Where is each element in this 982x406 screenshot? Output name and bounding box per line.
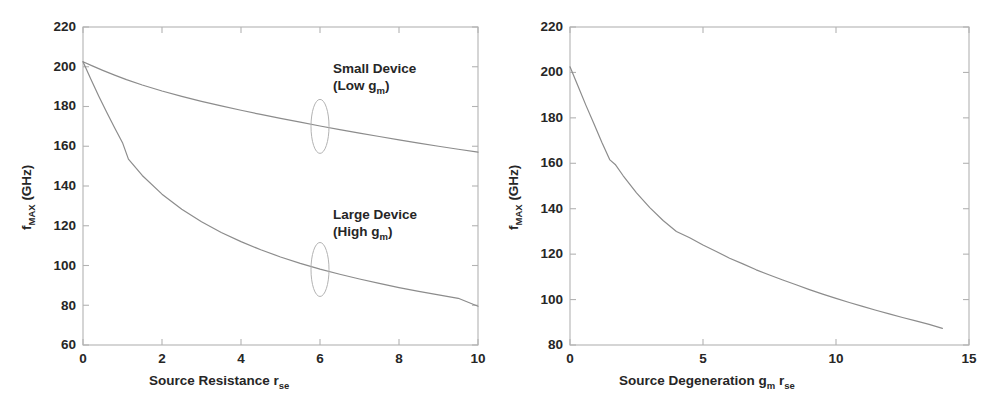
y-tick-label: 80 xyxy=(515,338,563,352)
x-tick-label: 15 xyxy=(949,352,982,366)
y-tick-label: 200 xyxy=(28,60,76,74)
x-axis-title-left: Source Resistance rse xyxy=(149,374,289,388)
x-axis-title-subscript-2: se xyxy=(784,380,795,391)
y-tick-label: 100 xyxy=(28,259,76,273)
annotation-line2-post: ) xyxy=(388,224,393,239)
annotation-line2-sub: m xyxy=(377,85,385,96)
x-tick-label: 2 xyxy=(142,352,182,366)
annotation-line2-pre: (High g xyxy=(333,224,380,239)
x-tick-label: 0 xyxy=(550,352,590,366)
y-tick-label: 180 xyxy=(28,99,76,113)
annotation-line2-sub: m xyxy=(380,231,388,242)
y-tick-label: 180 xyxy=(515,111,563,125)
x-axis-title-subscript: se xyxy=(279,380,290,391)
y-tick-label: 80 xyxy=(28,299,76,313)
annotation-large-device: Large Device (High gm) xyxy=(333,206,417,241)
plot-right-svg xyxy=(491,0,982,406)
y-axis-title-left: fMAX (GHz) xyxy=(20,165,34,230)
y-axis-title-text: f xyxy=(19,226,34,231)
x-tick-label: 4 xyxy=(221,352,261,366)
x-tick-label: 6 xyxy=(300,352,340,366)
y-tick-label: 220 xyxy=(515,20,563,34)
y-tick-label: 160 xyxy=(515,156,563,170)
chart-panel-right: 220 200 180 160 140 120 100 80 0 5 10 15… xyxy=(491,0,982,406)
annotation-line2-post: ) xyxy=(385,78,390,93)
y-axis-title-unit: (GHz) xyxy=(19,165,34,205)
annotation-line2-pre: (Low g xyxy=(333,78,377,93)
y-tick-label: 200 xyxy=(515,65,563,79)
annotation-small-device-line1: Small Device xyxy=(333,61,416,76)
x-axis-title-text: Source Resistance r xyxy=(149,373,279,388)
x-axis-title-text: Source Degeneration g xyxy=(619,373,767,388)
annotation-small-device-line2: (Low gm) xyxy=(333,77,416,94)
y-axis-title-subscript: MAX xyxy=(513,204,524,225)
y-tick-label: 220 xyxy=(28,20,76,34)
y-tick-label: 140 xyxy=(28,179,76,193)
x-tick-label: 10 xyxy=(816,352,856,366)
x-axis-title-right: Source Degeneration gm rse xyxy=(619,374,795,388)
y-axis-title-unit: (GHz) xyxy=(506,165,521,205)
y-tick-label: 160 xyxy=(28,139,76,153)
annotation-large-device-line2: (High gm) xyxy=(333,223,417,240)
x-axis-title-mid: r xyxy=(775,373,784,388)
y-axis-title-right: fMAX (GHz) xyxy=(507,165,521,230)
x-tick-label: 5 xyxy=(683,352,723,366)
y-axis-title-text: f xyxy=(506,226,521,231)
x-tick-label: 8 xyxy=(379,352,419,366)
annotation-small-device: Small Device (Low gm) xyxy=(333,60,416,95)
x-axis-title-subscript-1: m xyxy=(767,380,775,391)
y-tick-label: 60 xyxy=(28,338,76,352)
x-tick-label: 0 xyxy=(63,352,103,366)
y-axis-title-subscript: MAX xyxy=(26,204,37,225)
figure-container: 220 200 180 160 140 120 100 80 60 0 2 4 … xyxy=(0,0,982,406)
y-tick-label: 100 xyxy=(515,293,563,307)
annotation-large-device-line1: Large Device xyxy=(333,207,417,222)
y-tick-label: 120 xyxy=(515,247,563,261)
chart-panel-left: 220 200 180 160 140 120 100 80 60 0 2 4 … xyxy=(0,0,491,406)
